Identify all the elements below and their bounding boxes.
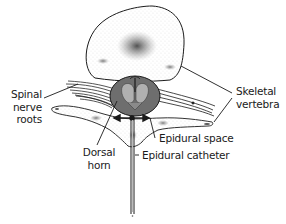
spinal-cord [110, 76, 160, 116]
vertebral-body [86, 6, 184, 81]
label-skeletal-vertebra: Skeletal vertebra [236, 85, 279, 110]
label-spinal-nerve-roots: Spinal nerve roots [6, 88, 42, 126]
label-line: roots [6, 113, 42, 126]
label-dorsal-horn: Dorsal horn [79, 146, 119, 171]
epidural-anatomy-diagram: Spinal nerve roots Skeletal vertebra Dor… [0, 0, 286, 224]
label-epidural-space: Epidural space [159, 132, 234, 145]
label-line: Spinal [6, 88, 42, 101]
label-line: nerve [6, 101, 42, 114]
label-epidural-catheter: Epidural catheter [142, 149, 229, 162]
label-line: vertebra [236, 98, 279, 111]
label-line: horn [79, 159, 119, 172]
epidural-catheter-drawing [131, 118, 134, 217]
label-line: Dorsal [79, 146, 119, 159]
anatomy-illustration [0, 0, 286, 224]
label-line: Skeletal [236, 85, 279, 98]
